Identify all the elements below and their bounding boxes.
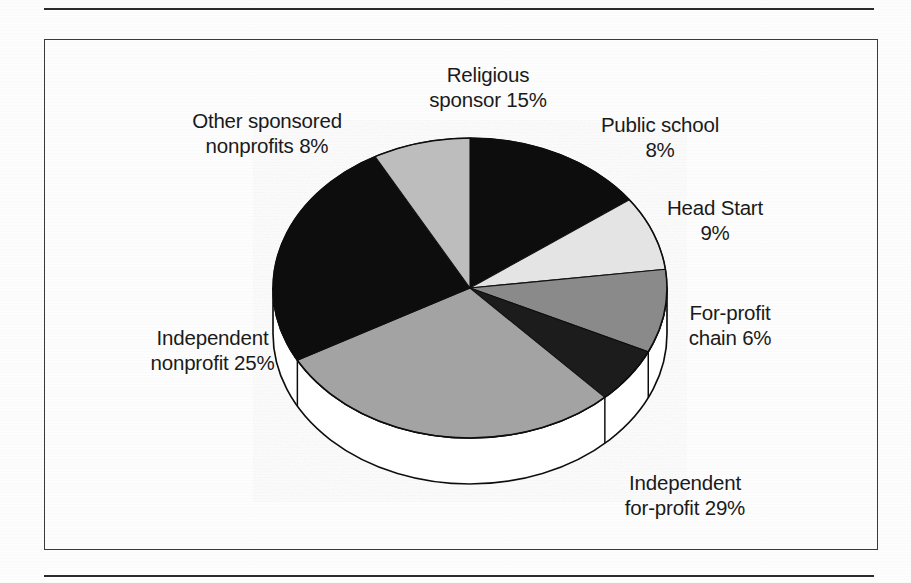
figure-border-box [44, 39, 878, 550]
top-horizontal-rule [44, 8, 874, 10]
bottom-horizontal-rule [44, 575, 874, 577]
